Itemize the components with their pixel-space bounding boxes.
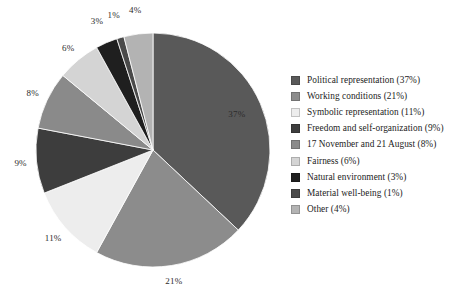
legend-item-label: Natural environment (3%) (307, 172, 406, 183)
legend-color-swatch (291, 205, 300, 214)
legend-item[interactable]: Natural environment (3%) (291, 169, 467, 185)
pie-slice-percent-label: 4% (129, 5, 141, 15)
legend-item[interactable]: Political representation (37%) (291, 72, 467, 88)
legend-item-label: Working conditions (21%) (307, 91, 407, 102)
pie-slice-percent-label: 21% (165, 276, 182, 286)
legend-item-label: Material well-being (1%) (307, 188, 403, 199)
pie-slice-percent-label: 11% (45, 233, 62, 243)
pie-chart-area: 37%21%11%9%8%6%3%1%4% (0, 0, 290, 299)
legend-color-swatch (291, 189, 300, 198)
legend-item[interactable]: 17 November and 21 August (8%) (291, 137, 467, 153)
pie-slices-group (36, 33, 270, 267)
legend-item[interactable]: Material well-being (1%) (291, 185, 467, 201)
legend-item[interactable]: Fairness (6%) (291, 153, 467, 169)
pie-slice-percent-label: 37% (228, 109, 245, 119)
legend-item[interactable]: Working conditions (21%) (291, 88, 467, 104)
pie-slice-percent-label: 3% (91, 16, 103, 26)
legend-color-swatch (291, 76, 300, 85)
legend-item-label: Freedom and self-organization (9%) (307, 123, 444, 134)
legend-item-label: 17 November and 21 August (8%) (307, 139, 436, 150)
legend-color-swatch (291, 140, 300, 149)
pie-chart-svg (0, 0, 290, 299)
legend-item-label: Other (4%) (307, 204, 350, 215)
pie-slice-percent-label: 1% (107, 10, 119, 20)
legend-item[interactable]: Symbolic representation (11%) (291, 104, 467, 120)
legend-color-swatch (291, 108, 300, 117)
legend-item[interactable]: Other (4%) (291, 202, 467, 218)
pie-chart-figure: 37%21%11%9%8%6%3%1%4% Political represen… (0, 0, 468, 299)
pie-slice-percent-label: 8% (26, 88, 38, 98)
legend-color-swatch (291, 124, 300, 133)
pie-slice-percent-label: 6% (62, 43, 74, 53)
legend-item-label: Symbolic representation (11%) (307, 107, 424, 118)
legend-color-swatch (291, 173, 300, 182)
legend-item-label: Political representation (37%) (307, 75, 420, 86)
legend-color-swatch (291, 157, 300, 166)
legend-item[interactable]: Freedom and self-organization (9%) (291, 121, 467, 137)
pie-slice-percent-label: 9% (14, 158, 26, 168)
legend-item-label: Fairness (6%) (307, 156, 360, 167)
chart-legend: Political representation (37%)Working co… (291, 72, 467, 218)
legend-color-swatch (291, 92, 300, 101)
